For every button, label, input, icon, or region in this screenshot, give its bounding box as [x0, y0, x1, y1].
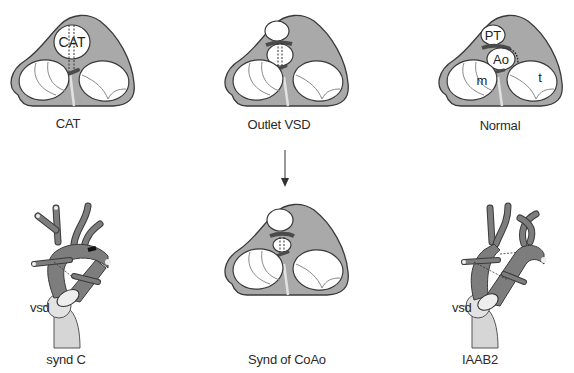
synd-coao-heart-diagram: [222, 204, 352, 299]
aortic-valve: [273, 238, 291, 252]
label-pt: PT: [485, 28, 502, 43]
caption-normal: Normal: [480, 118, 521, 133]
vsd-label-iaab2: vsd: [452, 300, 472, 315]
caption-cat: CAT: [56, 116, 80, 131]
outlet-vsd-heart-diagram: [222, 15, 352, 110]
synd-c-vessel-diagram: [14, 198, 124, 348]
iaab2-vessel-diagram: [464, 198, 564, 348]
valve-label-cat: CAT: [59, 34, 86, 50]
pulmonary-valve: [265, 21, 289, 41]
label-ao: Ao: [493, 52, 509, 67]
cat-heart-diagram: CAT: [8, 15, 138, 110]
label-t: t: [538, 70, 542, 85]
down-arrow-icon: [280, 150, 290, 188]
label-m: m: [477, 73, 488, 88]
caption-synd-c: synd C: [46, 352, 85, 367]
vsd-label-synd-c: vsd: [30, 300, 50, 315]
caption-synd-coao: Synd of CoAo: [248, 352, 326, 367]
pulmonary-valve: [267, 209, 293, 231]
caption-iaab2: IAAB2: [462, 352, 498, 367]
normal-heart-diagram: PT Ao m t: [436, 15, 566, 110]
caption-outlet-vsd: Outlet VSD: [247, 117, 310, 132]
